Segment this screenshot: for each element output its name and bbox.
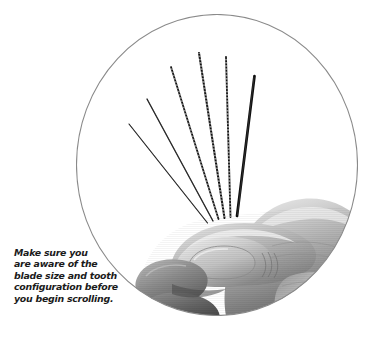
caption: Make sure you are aware of the blade siz…	[14, 247, 124, 304]
caption-line-3: blade size and tooth	[14, 270, 124, 281]
caption-line-1: Make sure you	[14, 247, 124, 258]
caption-line-5: you begin scrolling.	[14, 293, 124, 304]
caption-line-4: configuration before	[14, 281, 124, 292]
figure-root: Make sure you are aware of the blade siz…	[0, 0, 376, 345]
hand-rim-shadow	[312, 289, 358, 316]
caption-line-2: are aware of the	[14, 258, 124, 269]
